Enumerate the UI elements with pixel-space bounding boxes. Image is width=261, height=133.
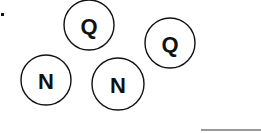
node-n2: N bbox=[92, 58, 144, 110]
node-n1-label: N bbox=[38, 69, 54, 94]
diagram-canvas: Q Q N N bbox=[0, 0, 261, 133]
node-q2: Q bbox=[145, 18, 195, 68]
corner-dot-mark bbox=[1, 13, 4, 16]
node-n2-label: N bbox=[110, 73, 126, 98]
node-n1: N bbox=[21, 55, 71, 105]
node-q1-label: Q bbox=[80, 14, 97, 39]
node-q1: Q bbox=[64, 0, 114, 50]
node-q2-label: Q bbox=[161, 32, 178, 57]
